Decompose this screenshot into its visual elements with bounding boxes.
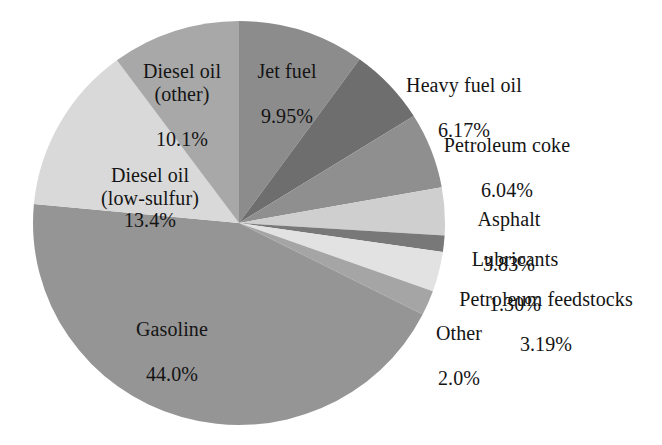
pie-label-value: 2.0% (404, 367, 514, 389)
pie-label-name: Diesel oil (low-sulfur) (101, 164, 199, 208)
pie-chart: Diesel oil (other) 10.1% Jet fuel 9.95% … (0, 0, 662, 445)
pie-label-name: Petroleum coke (414, 134, 600, 156)
pie-label-name: Gasoline (92, 318, 252, 340)
pie-label-name: Jet fuel (228, 60, 346, 82)
pie-label-name: Diesel oil (other) (123, 60, 241, 105)
pie-label-gasoline: Gasoline 44.0% (92, 296, 252, 408)
pie-label-name: Heavy fuel oil (378, 74, 550, 96)
pie-label-diesel-oil-low-sulfur: Diesel oil (low-sulfur) 13.4% (52, 142, 248, 232)
pie-label-value: 44.0% (92, 363, 252, 385)
pie-label-other: Other 2.0% (404, 300, 514, 412)
pie-label-value: 13.4% (124, 209, 176, 231)
pie-label-name: Other (404, 322, 514, 344)
pie-label-value: 9.95% (228, 105, 346, 127)
pie-label-jet-fuel: Jet fuel 9.95% (228, 38, 346, 150)
